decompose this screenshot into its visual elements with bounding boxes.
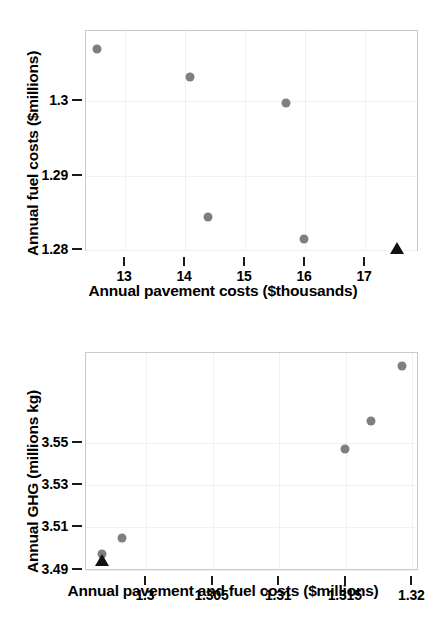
gridline-horizontal bbox=[86, 443, 417, 444]
y-axis-tick bbox=[72, 568, 82, 570]
gridline-horizontal bbox=[86, 485, 417, 486]
gridline-vertical bbox=[146, 353, 147, 569]
y-axis-title-bottom: Annual GHG (millions kg) bbox=[24, 390, 42, 573]
data-point-circle bbox=[282, 98, 291, 107]
y-axis-tick bbox=[72, 483, 82, 485]
gridline-horizontal bbox=[86, 527, 417, 528]
data-point-circle bbox=[186, 72, 195, 81]
y-axis-tick bbox=[72, 99, 82, 101]
gridline-vertical bbox=[245, 31, 246, 250]
gridline-vertical bbox=[305, 31, 306, 250]
y-axis-tick bbox=[72, 248, 82, 250]
data-point-circle bbox=[93, 44, 102, 53]
gridline-vertical bbox=[213, 353, 214, 569]
data-point-circle bbox=[398, 362, 407, 371]
y-axis-tick bbox=[72, 174, 82, 176]
plot-area-bottom bbox=[85, 352, 418, 570]
x-axis-tick bbox=[243, 257, 245, 266]
chart-panel-fuel-vs-pavement: 13141516171.281.291.3 Annual fuel costs … bbox=[0, 0, 446, 320]
x-axis-tick bbox=[303, 257, 305, 266]
data-point-triangle bbox=[95, 554, 109, 566]
gridline-horizontal bbox=[86, 570, 417, 571]
x-axis-tick bbox=[123, 257, 125, 266]
data-point-circle bbox=[300, 235, 309, 244]
x-axis-tick bbox=[183, 257, 185, 266]
gridline-vertical bbox=[346, 353, 347, 569]
figure-container: 13141516171.281.291.3 Annual fuel costs … bbox=[0, 0, 446, 641]
x-axis-tick bbox=[363, 257, 365, 266]
gridline-vertical bbox=[365, 31, 366, 250]
data-point-circle bbox=[366, 417, 375, 426]
data-point-circle bbox=[341, 444, 350, 453]
gridline-vertical bbox=[185, 31, 186, 250]
x-axis-title-bottom: Annual pavement and fuel costs ($million… bbox=[0, 582, 446, 600]
gridline-horizontal bbox=[86, 250, 417, 251]
y-axis-title-top: Annual fuel costs ($millions) bbox=[24, 51, 42, 256]
gridline-horizontal bbox=[86, 176, 417, 177]
data-point-triangle bbox=[390, 242, 404, 254]
gridline-vertical bbox=[125, 31, 126, 250]
gridline-horizontal bbox=[86, 101, 417, 102]
plot-area-top bbox=[85, 30, 418, 251]
x-axis-title-top: Annual pavement costs ($thousands) bbox=[0, 282, 446, 300]
chart-panel-ghg-vs-total-cost: 1.31.3051.311.3151.323.493.513.533.55 An… bbox=[0, 320, 446, 641]
data-point-circle bbox=[204, 212, 213, 221]
gridline-vertical bbox=[279, 353, 280, 569]
gridline-vertical bbox=[412, 353, 413, 569]
y-axis-tick bbox=[72, 525, 82, 527]
data-point-circle bbox=[118, 534, 127, 543]
y-axis-tick bbox=[72, 441, 82, 443]
